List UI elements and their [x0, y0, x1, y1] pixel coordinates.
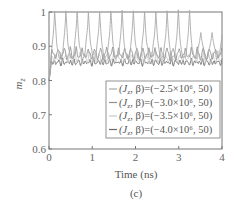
x-tick-label: 1 — [90, 151, 96, 163]
y-tick-label: 0.6 — [32, 143, 46, 155]
legend: (Jz, β)=(−2.5×10⁶, 50)(Jz, β)=(−3.0×10⁶,… — [106, 81, 220, 138]
figure-caption: (c) — [130, 187, 143, 200]
series-line-1 — [49, 10, 222, 81]
y-axis-label: mz — [12, 78, 27, 90]
x-axis-label: Time (ns) — [115, 168, 158, 181]
svg-text:mz: mz — [12, 78, 27, 90]
x-tick-label: 2 — [133, 151, 139, 163]
y-tick-label: 1 — [41, 6, 47, 18]
y-tick-label: 0.8 — [32, 75, 46, 87]
y-tick-label: 0.7 — [32, 109, 46, 121]
x-tick-label: 0 — [46, 151, 52, 163]
series-lines — [49, 10, 222, 81]
line-chart: 0.60.70.80.91 01234 Time (ns) mz (c) (Jz… — [0, 0, 235, 206]
y-tick-label: 0.9 — [32, 40, 46, 52]
x-tick-label: 4 — [219, 151, 225, 163]
x-tick-label: 3 — [176, 151, 182, 163]
